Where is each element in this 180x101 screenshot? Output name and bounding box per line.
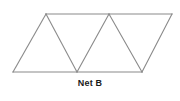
figure-container: Net B: [0, 0, 180, 101]
figure-caption: Net B: [0, 78, 180, 89]
